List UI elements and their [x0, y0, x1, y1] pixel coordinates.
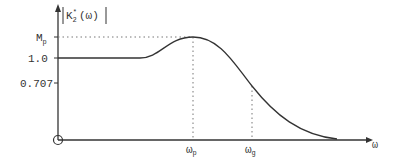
tick-1: 1.0 — [28, 53, 48, 65]
y-axis-title: K2*(ω) — [66, 8, 99, 24]
tick-wp: ωp — [186, 144, 197, 157]
frequency-response-diagram: K2*(ω) Mp 1.0 0.707 ωp ωg ω — [0, 0, 395, 160]
x-axis-title: ω — [372, 140, 378, 151]
magnitude-curve — [58, 37, 337, 139]
tick-0707: 0.707 — [20, 78, 53, 90]
tick-wg: ωg — [245, 144, 256, 157]
y-axis-arrow-icon — [55, 4, 61, 12]
tick-mp: Mp — [36, 32, 47, 46]
